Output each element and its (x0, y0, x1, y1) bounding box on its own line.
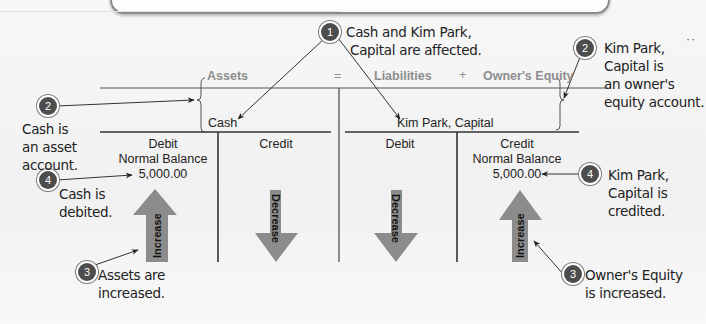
callout-1-arrow-cash (238, 38, 325, 119)
callout-badge-2-capital: 2 (576, 39, 594, 57)
assets-header: Assets (207, 69, 248, 83)
liabilities-header: Liabilities (374, 69, 432, 83)
increase-arrow-capital: Increase (499, 190, 542, 262)
capital-normal-balance: Normal Balance (462, 152, 572, 167)
cash-credit-header: Credit (222, 137, 330, 152)
owners-equity-header: Owner's Equity (483, 69, 574, 83)
svg-text:Decrease: Decrease (390, 194, 402, 243)
svg-text:Increase: Increase (514, 213, 526, 258)
callout-3-arrow-equity (534, 241, 564, 275)
callout-badge-3-assets: 3 (78, 263, 96, 281)
capital-credit-column: Credit Normal Balance 5,000.00 (462, 137, 572, 182)
callout-2-cash-text: Cash is an asset account. (22, 120, 78, 174)
cash-debit-column: Debit Normal Balance 5,000.00 (110, 137, 216, 182)
equals-sign: = (334, 69, 341, 83)
decrease-arrow-capital: Decrease (374, 190, 418, 262)
callout-4-cash-text: Cash is debited. (59, 185, 112, 221)
callout-2-arrow-cash (57, 100, 194, 106)
decrease-arrow-cash: Decrease (255, 190, 298, 262)
corner-dots: ·· (686, 32, 696, 46)
callout-badge-4-capital: 4 (581, 165, 599, 183)
callout-1-text: Cash and Kim Park, Capital are affected. (346, 23, 481, 59)
callout-3-assets-text: Assets are increased. (98, 266, 165, 302)
capital-debit-column: Debit (345, 137, 455, 152)
svg-text:Decrease: Decrease (270, 194, 282, 243)
capital-debit-header: Debit (345, 137, 455, 152)
account-name-cash: Cash (208, 116, 237, 130)
callout-4-capital-text: Kim Park, Capital is credited. (608, 166, 669, 220)
cash-credit-column: Credit (222, 137, 330, 152)
account-name-capital: Kim Park, Capital (397, 116, 494, 130)
diagram-canvas: Increase Decrease Decrease Increase Asse… (0, 0, 706, 324)
svg-text:Increase: Increase (151, 213, 163, 258)
plus-sign: + (459, 68, 466, 82)
capital-balance-value: 5,000.00 (462, 167, 572, 182)
callout-badge-1: 1 (321, 23, 339, 41)
callout-3-equity-text: Owner's Equity is increased. (585, 266, 683, 302)
right-brace (556, 78, 564, 130)
callout-badge-2-cash: 2 (39, 97, 57, 115)
increase-arrow-cash: Increase (133, 189, 177, 262)
left-brace (197, 78, 205, 132)
cash-debit-header: Debit (110, 137, 216, 152)
callout-3-arrow-assets (95, 250, 138, 265)
cash-balance-value: 5,000.00 (110, 167, 216, 182)
capital-credit-header: Credit (462, 137, 572, 152)
cash-normal-balance: Normal Balance (110, 152, 216, 167)
callout-badge-3-equity: 3 (564, 265, 582, 283)
callout-2-capital-text: Kim Park, Capital is an owner's equity a… (604, 39, 704, 111)
